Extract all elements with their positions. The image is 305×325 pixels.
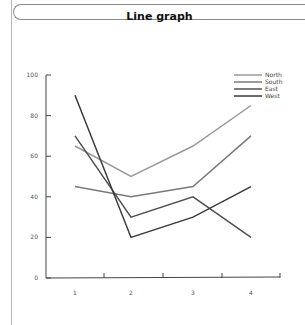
y-tick-label: 0: [34, 274, 38, 281]
y-tick-label: 100: [27, 71, 39, 78]
legend-label-south: South: [265, 78, 283, 85]
series-line-west: [75, 95, 251, 237]
line-chart: 0204060801001234NorthSouthEastWest: [0, 0, 305, 325]
legend-label-west: West: [265, 92, 280, 99]
legend-label-north: North: [265, 71, 282, 78]
y-tick-label: 80: [30, 112, 38, 119]
series-line-north: [75, 106, 251, 177]
y-tick-label: 60: [30, 152, 38, 159]
legend-label-east: East: [265, 85, 279, 92]
y-tick-label: 20: [30, 233, 38, 240]
series-line-east: [75, 136, 251, 238]
y-tick-label: 40: [30, 193, 38, 200]
x-tick-label: 2: [129, 289, 133, 296]
series-line-south: [75, 136, 251, 197]
x-tick-label: 1: [73, 289, 77, 296]
x-tick-label: 3: [191, 289, 195, 296]
x-tick-label: 4: [249, 289, 253, 296]
